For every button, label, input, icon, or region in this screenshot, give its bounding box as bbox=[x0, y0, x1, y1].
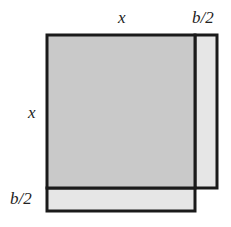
bottom-strip-rect bbox=[47, 188, 195, 211]
top-x-label: x bbox=[118, 9, 126, 26]
left-x-label: x bbox=[28, 104, 36, 121]
top-half-b-label: b/2 bbox=[192, 9, 214, 26]
left-half-b-label: b/2 bbox=[10, 190, 32, 207]
main-square-rect bbox=[47, 35, 195, 188]
right-strip-rect bbox=[195, 35, 217, 188]
